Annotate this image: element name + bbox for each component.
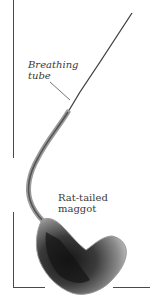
label-leader-line <box>0 0 150 300</box>
maggot-label: Rat-tailed maggot <box>58 192 108 214</box>
breathing-tube-label: Breathing tube <box>28 59 79 81</box>
